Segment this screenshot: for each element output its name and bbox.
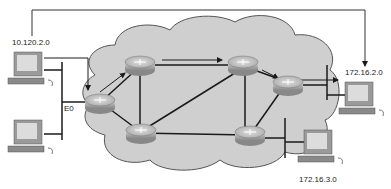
pc-host-1[interactable] (8, 52, 53, 86)
interface-label-e0: E0 (64, 104, 74, 113)
network-label-172-16-3-0: 172.16.3.0 (299, 175, 337, 184)
pc-host-2[interactable] (8, 120, 53, 154)
router-r5[interactable] (126, 124, 156, 144)
arrow-pc1-to-r1 (44, 58, 88, 90)
router-r6[interactable] (235, 126, 265, 146)
network-diagram (0, 0, 391, 189)
router-r4[interactable] (273, 76, 303, 96)
router-r3[interactable] (228, 56, 258, 76)
router-r1[interactable] (85, 94, 115, 114)
network-label-172-16-2-0: 172.16.2.0 (345, 68, 383, 77)
network-label-10-120-2-0: 10.120.2.0 (12, 38, 50, 47)
pc-host-4[interactable] (298, 130, 343, 164)
router-r2[interactable] (125, 56, 155, 76)
pc-host-3[interactable] (339, 82, 384, 116)
